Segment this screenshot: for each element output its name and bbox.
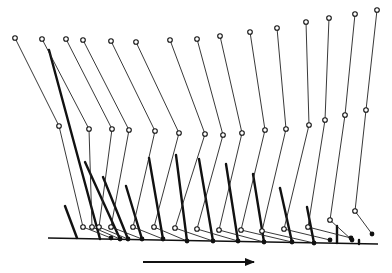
ankle-joint-marker (328, 218, 333, 223)
thigh-shank-line (136, 42, 179, 227)
foot-line (154, 227, 187, 241)
ankle-joint-marker (195, 227, 200, 232)
ankle-joint-marker (90, 225, 95, 230)
knee-joint-marker (240, 131, 245, 136)
toe-marker (328, 238, 333, 243)
toe-marker (370, 232, 375, 237)
knee-joint-marker (263, 128, 268, 133)
ankle-joint-marker (173, 226, 178, 231)
toe-marker (126, 237, 131, 242)
knee-joint-marker (57, 124, 62, 129)
ankle-joint-marker (81, 225, 86, 230)
hip-joint-marker (327, 16, 332, 21)
ankle-joint-marker (239, 228, 244, 233)
thigh-shank-line (197, 39, 223, 229)
ankle-joint-marker (306, 225, 311, 230)
leg-frame (81, 38, 145, 242)
leg-frame (306, 16, 354, 241)
knee-joint-marker (364, 108, 369, 113)
hip-joint-marker (109, 39, 114, 44)
toe-marker (236, 239, 241, 244)
foot-line (175, 228, 213, 241)
ankle-joint-marker (217, 228, 222, 233)
toe-marker (161, 237, 166, 242)
diagram-canvas (0, 0, 392, 273)
knee-joint-marker (284, 127, 289, 132)
ankle-joint-marker (282, 227, 287, 232)
knee-joint-marker (87, 127, 92, 132)
stance-leg-segments (49, 50, 359, 244)
toe-marker (262, 240, 267, 245)
hip-joint-marker (248, 30, 253, 35)
swing-leg-frames (13, 8, 380, 246)
thigh-shank-line (15, 38, 83, 227)
hip-joint-marker (168, 38, 173, 43)
ankle-joint-marker (97, 225, 102, 230)
knee-joint-marker (307, 123, 312, 128)
toe-marker (140, 237, 145, 242)
hip-joint-marker (353, 12, 358, 17)
toe-marker (118, 237, 123, 242)
stance-leg-segment (126, 186, 142, 239)
stance-leg-segment (49, 50, 100, 239)
hip-joint-marker (375, 8, 380, 13)
knee-joint-marker (221, 133, 226, 138)
hip-joint-marker (40, 37, 45, 42)
hip-joint-marker (13, 36, 18, 41)
knee-joint-marker (203, 132, 208, 137)
leg-frame (13, 36, 114, 241)
stance-leg-segment (199, 159, 213, 241)
toe-marker (350, 238, 355, 243)
knee-joint-marker (110, 127, 115, 132)
thigh-shank-line (284, 22, 309, 229)
toe-marker (290, 240, 295, 245)
knee-joint-marker (343, 113, 348, 118)
ankle-joint-marker (109, 225, 114, 230)
thigh-shank-line (42, 39, 92, 227)
hip-joint-marker (134, 40, 139, 45)
toe-marker (211, 239, 216, 244)
stance-leg-segment (280, 188, 292, 242)
hip-joint-marker (64, 37, 69, 42)
hip-joint-marker (304, 20, 309, 25)
foot-line (355, 211, 372, 234)
leg-frame (353, 8, 380, 237)
hip-joint-marker (275, 26, 280, 31)
knee-joint-marker (323, 118, 328, 123)
ankle-joint-marker (260, 229, 265, 234)
leg-frame (40, 37, 123, 242)
hip-joint-marker (195, 37, 200, 42)
knee-joint-marker (177, 131, 182, 136)
leg-frame (328, 12, 358, 243)
knee-joint-marker (153, 129, 158, 134)
foot-line (330, 220, 352, 240)
toe-marker (312, 241, 317, 246)
hip-joint-marker (81, 38, 86, 43)
gait-diagram (0, 0, 392, 273)
thigh-shank-line (241, 32, 265, 230)
ankle-joint-marker (152, 225, 157, 230)
ankle-joint-marker (353, 209, 358, 214)
thigh-shank-line (330, 14, 355, 220)
thigh-shank-line (170, 40, 205, 228)
hip-joint-marker (218, 34, 223, 39)
ankle-joint-marker (131, 225, 136, 230)
toe-marker (185, 239, 190, 244)
knee-joint-marker (127, 128, 132, 133)
stance-leg-segment (65, 206, 77, 238)
